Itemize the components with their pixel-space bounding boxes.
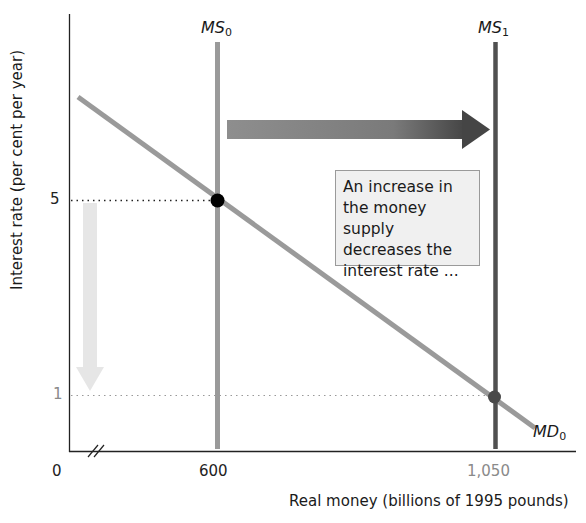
annotation-line-3: decreases the — [343, 240, 472, 261]
annotation-line-2: the money supply — [343, 198, 472, 240]
supply-shift-arrow-icon — [227, 110, 490, 149]
annotation-box: An increase in the money supply decrease… — [335, 170, 480, 266]
md0-label: MD0 — [533, 422, 566, 443]
equilibrium-point-new — [488, 391, 501, 404]
y-tick-1: 1 — [53, 385, 63, 403]
money-market-chart: MS0 MS1 MD0 5 1 0 600 1,050 Real money (… — [0, 0, 586, 523]
ms1-label: MS1 — [478, 18, 509, 39]
x-tick-600: 600 — [199, 462, 228, 480]
x-tick-1050: 1,050 — [467, 462, 510, 480]
equilibrium-point-initial — [211, 194, 225, 208]
ms0-label: MS0 — [201, 18, 232, 39]
rate-fall-arrow-icon — [76, 203, 104, 391]
chart-canvas — [0, 0, 586, 523]
axes — [69, 14, 576, 457]
x-axis-title: Real money (billions of 1995 pounds) — [289, 492, 569, 510]
annotation-line-1: An increase in — [343, 177, 472, 198]
x-tick-0: 0 — [52, 462, 62, 480]
y-axis-title: Interest rate (per cent per year) — [8, 50, 26, 290]
y-tick-5: 5 — [50, 190, 60, 208]
annotation-line-4: interest rate ... — [343, 261, 472, 282]
